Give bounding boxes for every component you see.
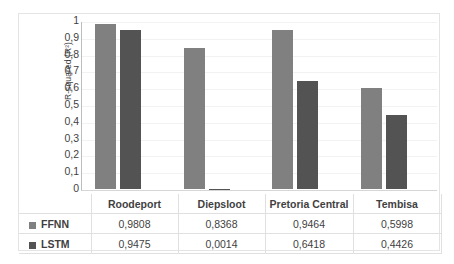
legend-swatch-icon [29,242,36,249]
table-cell-ffnn-tembisa: 0,5998 [353,214,441,234]
bar-lstm-tembisa [386,115,407,189]
y-axis-tick-label: 0,4 [45,116,79,126]
bar-group [172,22,261,189]
table-header-row: RoodeportDiepslootPretoria CentralTembis… [19,194,441,214]
bar-group [349,22,438,189]
plot-area [81,22,437,191]
data-table: RoodeportDiepslootPretoria CentralTembis… [19,194,442,254]
y-axis-tick-label: 0,3 [45,133,79,143]
table-row: LSTM0,94750,00140,64180,4426 [19,234,441,254]
y-axis-tick-label: 0,8 [45,49,79,59]
table-row: FFNN0,98080,83680,94640,5998 [19,214,441,234]
table-cell-lstm-pretoria-central: 0,6418 [265,234,353,254]
bar-ffnn-tembisa [361,88,382,189]
table-cell-lstm-tembisa: 0,4426 [353,234,441,254]
legend-swatch-icon [29,222,36,229]
legend-item-ffnn[interactable]: FFNN [19,214,91,234]
bar-lstm-pretoria-central [297,81,318,189]
y-axis-tick-label: 0 [45,183,79,193]
legend-item-lstm[interactable]: LSTM [19,234,91,254]
bar-ffnn-pretoria-central [272,30,293,189]
y-axis-tick-label: 0,6 [45,82,79,92]
chart-frame: R-squared (R²) 10,90,80,70,60,50,40,30,2… [18,13,440,251]
table-cell-lstm-roodeport: 0,9475 [91,234,178,254]
table-cell-ffnn-roodeport: 0,9808 [91,214,178,234]
bar-group [260,22,349,189]
bar-group [83,22,172,189]
column-header-diepsloot: Diepsloot [178,194,265,214]
y-axis-tick-label: 1 [45,15,79,25]
legend-label: FFNN [41,218,69,230]
y-axis-tick-labels: 10,90,80,70,60,50,40,30,20,10 [45,17,79,194]
y-axis-tick-label: 0,9 [45,32,79,42]
column-header-roodeport: Roodeport [91,194,178,214]
table-cell-ffnn-pretoria-central: 0,9464 [265,214,353,234]
bar-ffnn-roodeport [95,24,116,189]
column-header-tembisa: Tembisa [353,194,441,214]
y-axis-tick-label: 0,7 [45,65,79,75]
y-axis-tick-label: 0,2 [45,149,79,159]
table-cell-ffnn-diepsloot: 0,8368 [178,214,265,234]
bars-layer [83,22,437,189]
y-axis-tick-label: 0,1 [45,166,79,176]
bar-ffnn-diepsloot [184,48,205,189]
table-cell-lstm-diepsloot: 0,0014 [178,234,265,254]
legend-label: LSTM [41,238,70,250]
plot-region: R-squared (R²) 10,90,80,70,60,50,40,30,2… [19,14,441,194]
bar-lstm-roodeport [120,30,141,189]
table-corner-cell [19,194,91,214]
y-axis-tick-label: 0,5 [45,99,79,109]
column-header-pretoria-central: Pretoria Central [265,194,353,214]
